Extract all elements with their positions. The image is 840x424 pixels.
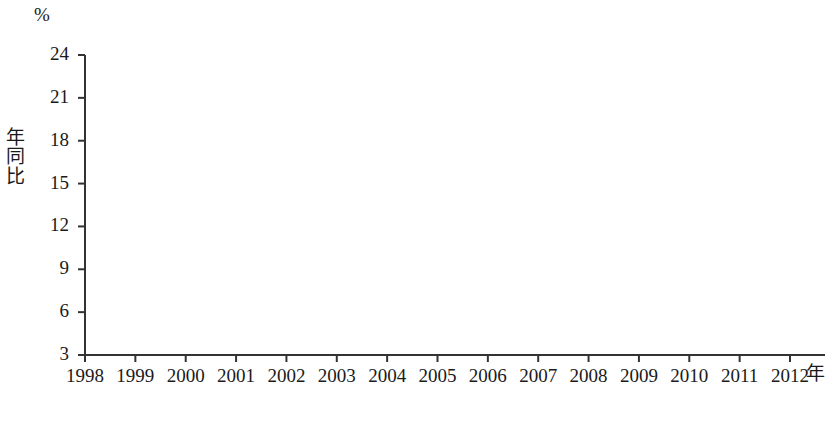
axes <box>78 55 825 362</box>
line-chart: % 年 同 比 3691215182124 199819992000200120… <box>0 0 840 424</box>
plot-area <box>0 0 840 424</box>
